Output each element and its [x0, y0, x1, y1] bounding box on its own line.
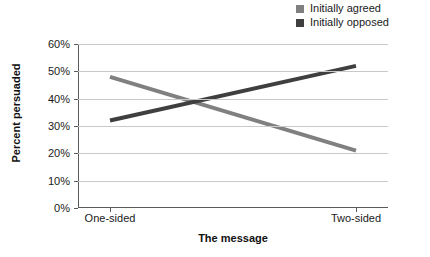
- gridline: [78, 181, 388, 182]
- legend-item-initially-agreed[interactable]: Initially agreed: [296, 2, 426, 15]
- x-axis-tick-label: One-sided: [85, 212, 136, 224]
- y-axis-tick-label: 20%: [48, 147, 70, 159]
- y-axis-tick: [74, 71, 78, 72]
- y-axis-tick-label: 30%: [48, 120, 70, 132]
- y-axis-title-text: Percent persuaded: [10, 63, 22, 162]
- y-axis-tick: [74, 181, 78, 182]
- y-axis-tick-label: 0%: [54, 202, 70, 214]
- x-axis-tick-labels: One-sidedTwo-sided: [78, 212, 388, 228]
- x-axis-tick-label: Two-sided: [331, 212, 381, 224]
- legend-label: Initially opposed: [310, 16, 389, 29]
- y-axis-tick: [74, 153, 78, 154]
- y-axis-tick: [74, 44, 78, 45]
- legend-item-initially-opposed[interactable]: Initially opposed: [296, 16, 426, 29]
- plot-area: [78, 44, 388, 208]
- chart-container: Initially agreed Initially opposed Perce…: [0, 0, 430, 257]
- gridline: [78, 71, 388, 72]
- y-axis-tick: [74, 99, 78, 100]
- y-axis-tick: [74, 126, 78, 127]
- legend-swatch-icon: [296, 5, 304, 13]
- legend-label: Initially agreed: [310, 2, 381, 15]
- y-axis-tick-label: 10%: [48, 175, 70, 187]
- gridline: [78, 126, 388, 127]
- gridline: [78, 153, 388, 154]
- y-axis-tick-label: 60%: [48, 38, 70, 50]
- chart-legend: Initially agreed Initially opposed: [296, 2, 426, 30]
- y-axis-title: Percent persuaded: [8, 48, 24, 178]
- gridline: [78, 44, 388, 45]
- y-axis-tick-label: 40%: [48, 93, 70, 105]
- y-axis-tick-label: 50%: [48, 65, 70, 77]
- y-axis-tick: [74, 208, 78, 209]
- y-axis-tick-labels: 0%10%20%30%40%50%60%: [26, 38, 74, 208]
- x-axis-title: The message: [78, 232, 388, 244]
- legend-swatch-icon: [296, 19, 304, 27]
- gridline: [78, 99, 388, 100]
